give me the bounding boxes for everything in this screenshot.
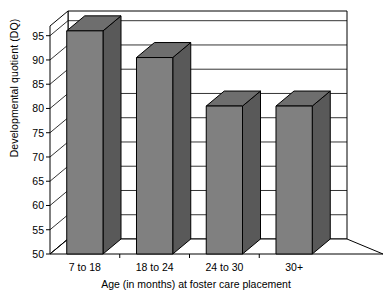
x-axis-tick-label: 30+ xyxy=(259,262,329,272)
y-axis-tick-label: 80 xyxy=(18,103,44,113)
chart-xtick-marks xyxy=(120,254,383,258)
y-axis-tick-label: 70 xyxy=(18,152,44,162)
bar-column xyxy=(276,91,330,254)
x-axis-tick-label: 18 to 24 xyxy=(120,262,190,272)
chart-ytick-marks xyxy=(46,36,50,254)
bar-column xyxy=(67,16,121,254)
y-axis-tick-label: 90 xyxy=(18,55,44,65)
y-axis-tick-label: 55 xyxy=(18,225,44,235)
chart-canvas xyxy=(0,0,392,297)
x-axis-label: Age (in months) at foster care placement xyxy=(0,274,392,292)
x-axis-tick-label: 7 to 18 xyxy=(50,262,120,272)
bar-column xyxy=(206,91,260,254)
bar-column xyxy=(136,43,190,254)
y-axis-tick-label: 65 xyxy=(18,176,44,186)
x-axis-label-text: Age (in months) at foster care placement xyxy=(101,278,291,290)
chart-container: Developmental quotient (DQ) Age (in mont… xyxy=(0,0,392,297)
y-axis-tick-label: 60 xyxy=(18,200,44,210)
y-axis-tick-label: 95 xyxy=(18,31,44,41)
y-axis-tick-label: 50 xyxy=(18,249,44,259)
x-axis-tick-label: 24 to 30 xyxy=(190,262,260,272)
y-axis-tick-label: 75 xyxy=(18,128,44,138)
y-axis-tick-label: 85 xyxy=(18,79,44,89)
